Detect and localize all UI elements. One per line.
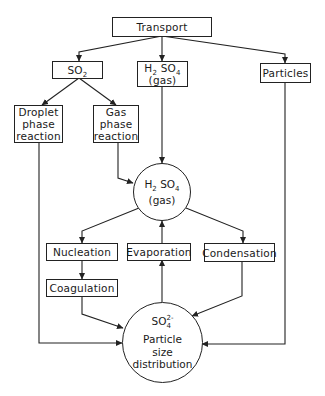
so4-line2: Particle	[143, 333, 182, 346]
particles-label: Particles	[262, 67, 308, 79]
coagulation-node: Coagulation	[46, 279, 118, 297]
h2so4-box-formula: H2 SO4	[144, 62, 180, 74]
so4-particle-size-distribution-node: SO2-4 Particle size distribution	[122, 302, 203, 383]
evaporation-node: Evaporation	[127, 243, 191, 261]
nucleation-node: Nucleation	[46, 243, 118, 261]
condensation-label: Condensation	[202, 247, 277, 259]
edge-condensation-so4	[192, 261, 242, 316]
edge-coagulation-so4	[82, 296, 123, 328]
condensation-node: Condensation	[204, 243, 275, 262]
h2so4-gas-circle-node: H2 SO4 (gas)	[133, 163, 191, 221]
so4-formula: SO2-4	[152, 314, 174, 330]
h2so4-circle-formula: H2 SO4	[144, 178, 179, 191]
droplet-line2: phase	[22, 118, 55, 130]
gasphase-line2: phase	[100, 118, 133, 130]
droplet-line3: reaction	[16, 130, 60, 142]
so4-line4: distribution	[133, 358, 193, 371]
edge-gasphase-circle	[118, 142, 133, 183]
transport-node: Transport	[112, 17, 212, 37]
particles-node: Particles	[260, 63, 311, 83]
coagulation-label: Coagulation	[49, 282, 114, 294]
edge-so2-droplet	[42, 78, 79, 105]
so2-node: SO2	[52, 61, 103, 79]
edge-transport-particles	[162, 36, 285, 63]
transport-label: Transport	[136, 21, 187, 33]
edge-transport-so2	[79, 36, 162, 61]
edge-circle-condensation	[186, 208, 243, 243]
evaporation-label: Evaporation	[126, 246, 191, 258]
edge-circle-nucleation	[82, 208, 139, 243]
droplet-line1: Droplet	[18, 106, 58, 118]
nucleation-label: Nucleation	[53, 246, 111, 258]
h2so4-box-phase: (gas)	[149, 74, 177, 86]
droplet-phase-reaction-node: Droplet phase reaction	[14, 105, 63, 143]
gasphase-line1: Gas	[106, 106, 127, 118]
h2so4-circle-phase: (gas)	[149, 194, 176, 207]
edge-particles-so4	[202, 82, 285, 344]
edge-so2-gasphase	[79, 78, 116, 105]
gas-phase-reaction-node: Gas phase reaction	[93, 105, 139, 143]
so2-label: SO2	[68, 64, 88, 76]
h2so4-gas-box-node: H2 SO4 (gas)	[137, 61, 188, 87]
gasphase-line3: reaction	[94, 130, 138, 142]
so4-line3: size	[152, 346, 172, 359]
